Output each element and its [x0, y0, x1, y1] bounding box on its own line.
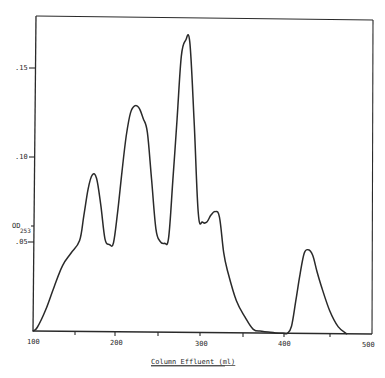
y-tick-label-015: .15 — [15, 64, 28, 72]
top-border-line — [36, 16, 373, 20]
od253-curve — [33, 35, 347, 334]
x-tick-label-100: 100 — [27, 338, 40, 346]
x-axis-title: Column Effluent (ml) — [151, 358, 235, 366]
x-tick-label-200: 200 — [110, 339, 123, 347]
y-tick-label-005: .05 — [15, 238, 28, 246]
right-border-line — [372, 20, 373, 334]
x-tick-label-500: 500 — [362, 341, 375, 349]
y-axis-line — [33, 16, 36, 331]
y-tick-label-010: .10 — [15, 153, 28, 161]
x-tick-label-300: 300 — [195, 340, 208, 348]
od-label-sub: 253 — [20, 227, 31, 234]
x-tick-label-400: 400 — [278, 340, 291, 348]
x-axis-line — [33, 331, 372, 334]
chromatogram-chart: .15 .10 .05 OD 253 100 200 300 400 500 C… — [0, 0, 385, 378]
